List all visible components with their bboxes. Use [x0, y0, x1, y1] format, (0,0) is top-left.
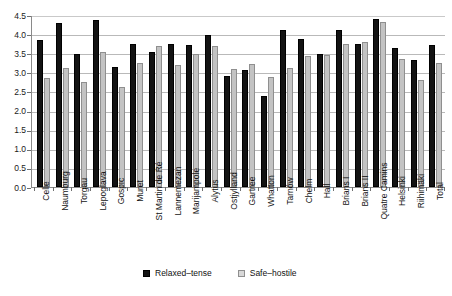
bar-relaxed-tense[interactable] — [130, 44, 136, 187]
bar-group — [277, 16, 296, 187]
x-axis-tick-label: Celle — [42, 181, 51, 200]
bar-relaxed-tense[interactable] — [56, 23, 62, 187]
y-axis-tick-label: 2.0 — [0, 107, 26, 115]
bar-safe-hostile[interactable] — [249, 64, 255, 187]
y-axis-tick-label: 2.5 — [0, 88, 26, 96]
x-axis-label-cell: St Martin de Ré — [145, 189, 164, 265]
x-axis-label-cell: Chelm — [295, 189, 314, 265]
bar-group — [71, 16, 90, 187]
bar-group — [389, 16, 408, 187]
bar-relaxed-tense[interactable] — [112, 67, 118, 187]
x-axis-labels: CelleNaumburgTorgauLepoglavaGospicMuretS… — [31, 189, 445, 265]
legend-label: Relaxed–tense — [155, 268, 212, 278]
bar-group — [127, 16, 146, 187]
legend-item[interactable]: Relaxed–tense — [143, 268, 212, 278]
x-axis-label-cell: Helsinki — [389, 189, 408, 265]
bar-relaxed-tense[interactable] — [355, 44, 361, 187]
bar-safe-hostile[interactable] — [399, 59, 405, 187]
y-axis-tick-label: 4.0 — [0, 31, 26, 39]
bar-relaxed-tense[interactable] — [298, 39, 304, 187]
bar-relaxed-tense[interactable] — [392, 48, 398, 187]
bar-safe-hostile[interactable] — [81, 82, 87, 187]
bar-safe-hostile[interactable] — [362, 42, 368, 187]
x-axis-tick-label: St Martin de Ré — [155, 161, 164, 220]
x-axis-label-cell: Gartree — [239, 189, 258, 265]
chart-figure: 0.00.51.01.52.02.53.03.54.04.5 CelleNaum… — [0, 0, 452, 296]
bar-relaxed-tense[interactable] — [74, 54, 80, 187]
bar-safe-hostile[interactable] — [44, 78, 50, 187]
x-axis-label-cell: Celle — [33, 189, 52, 265]
bar-relaxed-tense[interactable] — [205, 35, 211, 187]
bar-safe-hostile[interactable] — [324, 55, 330, 187]
x-axis-tick-label: Quatre Camins — [380, 162, 389, 219]
bar-group — [314, 16, 333, 187]
bar-group — [296, 16, 315, 187]
x-axis-label-cell: Alytus — [202, 189, 221, 265]
y-axis-tick-label: 1.0 — [0, 145, 26, 153]
bar-relaxed-tense[interactable] — [168, 44, 174, 187]
legend-swatch-icon — [143, 270, 150, 277]
x-axis-tick-label: Tarnów — [286, 177, 295, 204]
bar-relaxed-tense[interactable] — [411, 60, 417, 187]
x-axis-label-cell: Ostjylland — [220, 189, 239, 265]
bar-group — [240, 16, 259, 187]
bar-safe-hostile[interactable] — [418, 80, 424, 187]
bar-safe-hostile[interactable] — [231, 69, 237, 187]
y-axis-tick-label: 3.0 — [0, 69, 26, 77]
bar-group — [202, 16, 221, 187]
x-axis-tick-label: Gospic — [117, 178, 126, 204]
bar-group — [258, 16, 277, 187]
bar-group — [53, 16, 72, 187]
bar-group — [109, 16, 128, 187]
chart-legend: Relaxed–tenseSafe–hostile — [143, 268, 297, 278]
bar-safe-hostile[interactable] — [305, 56, 311, 187]
x-axis-tick-label: Helsinki — [398, 176, 407, 206]
x-axis-label-cell: Tarnów — [277, 189, 296, 265]
x-axis-tick-label: Naumburg — [61, 171, 70, 211]
bar-safe-hostile[interactable] — [63, 68, 69, 187]
bar-safe-hostile[interactable] — [343, 44, 349, 187]
x-axis-label-cell: Marijampole — [183, 189, 202, 265]
x-axis-label-cell: Muret — [127, 189, 146, 265]
bar-relaxed-tense[interactable] — [186, 45, 192, 187]
x-axis-label-cell: Torgau — [70, 189, 89, 265]
bar-safe-hostile[interactable] — [287, 68, 293, 187]
x-axis-label-cell: Brians II — [351, 189, 370, 265]
x-axis-label-cell: Lannemezan — [164, 189, 183, 265]
bar-relaxed-tense[interactable] — [429, 45, 435, 187]
bar-safe-hostile[interactable] — [119, 87, 125, 187]
y-axis-tick-label: 3.5 — [0, 50, 26, 58]
y-axis-tick-label: 1.5 — [0, 126, 26, 134]
x-axis-tick-label: Lannemezan — [174, 166, 183, 215]
bar-group — [34, 16, 53, 187]
x-axis-tick-label: Alytus — [211, 179, 220, 202]
bar-group — [426, 16, 445, 187]
legend-swatch-icon — [238, 270, 245, 277]
x-axis-label-cell: Quatre Camins — [370, 189, 389, 265]
bar-safe-hostile[interactable] — [436, 63, 442, 187]
x-axis-label-cell: Total — [426, 189, 445, 265]
bar-relaxed-tense[interactable] — [261, 96, 267, 187]
x-axis-tick-label: Muret — [136, 180, 145, 202]
bar-relaxed-tense[interactable] — [317, 54, 323, 187]
bar-relaxed-tense[interactable] — [280, 30, 286, 187]
bar-group — [184, 16, 203, 187]
bar-group — [408, 16, 427, 187]
bar-group — [165, 16, 184, 187]
y-axis-tick-label: 4.5 — [0, 12, 26, 20]
x-axis-label-cell: Gospic — [108, 189, 127, 265]
legend-item[interactable]: Safe–hostile — [238, 268, 297, 278]
bar-relaxed-tense[interactable] — [224, 76, 230, 187]
bar-relaxed-tense[interactable] — [242, 70, 248, 187]
bar-relaxed-tense[interactable] — [93, 20, 99, 187]
bar-safe-hostile[interactable] — [212, 46, 218, 187]
bar-safe-hostile[interactable] — [137, 63, 143, 187]
x-axis-tick-label: Hall — [323, 184, 332, 199]
bar-safe-hostile[interactable] — [268, 77, 274, 187]
legend-label: Safe–hostile — [250, 268, 297, 278]
bar-safe-hostile[interactable] — [100, 52, 106, 187]
bar-group — [370, 16, 389, 187]
bar-relaxed-tense[interactable] — [37, 40, 43, 187]
bar-relaxed-tense[interactable] — [336, 30, 342, 187]
bar-groups — [32, 16, 445, 187]
